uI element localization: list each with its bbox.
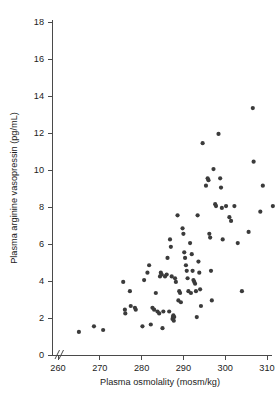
data-point <box>157 311 161 315</box>
data-point <box>77 330 81 334</box>
data-point <box>209 269 213 273</box>
x-tick-label-260: 260 <box>50 363 65 373</box>
data-point <box>172 319 176 323</box>
y-axis-title: Plasma arginine vasopressin (pg/mL) <box>9 112 19 264</box>
axis-break-icon <box>55 350 64 359</box>
data-point <box>204 184 208 188</box>
y-tick-label-18: 18 <box>34 17 44 27</box>
data-point <box>181 232 185 236</box>
data-point <box>193 282 197 286</box>
data-point <box>194 289 198 293</box>
data-point <box>216 132 220 136</box>
data-point <box>198 287 202 291</box>
x-tick-label-290: 290 <box>176 363 191 373</box>
data-point <box>180 226 184 230</box>
data-point <box>232 204 236 208</box>
data-points-layer <box>77 36 279 334</box>
data-point <box>227 215 231 219</box>
data-point <box>185 269 189 273</box>
data-point <box>208 235 212 239</box>
data-point <box>271 204 275 208</box>
data-point <box>154 291 158 295</box>
data-point <box>219 185 223 189</box>
data-point <box>196 259 200 263</box>
data-point <box>168 237 172 241</box>
y-tick-labels: 024681012141618 <box>34 17 44 360</box>
scatter-plot-figure: 024681012141618 260270280290300310 Plasm… <box>0 0 279 401</box>
data-point <box>206 178 210 182</box>
data-point <box>169 245 173 249</box>
data-point <box>207 232 211 236</box>
data-point <box>220 206 224 210</box>
x-tick-label-270: 270 <box>92 363 107 373</box>
data-point <box>252 160 256 164</box>
x-tick-marks <box>58 356 279 361</box>
data-point <box>236 241 240 245</box>
data-point <box>167 309 171 313</box>
y-tick-label-12: 12 <box>34 128 44 138</box>
y-tick-label-2: 2 <box>39 313 44 323</box>
data-point <box>196 213 200 217</box>
plot-canvas: 024681012141618 260270280290300310 Plasm… <box>0 0 279 401</box>
x-tick-label-280: 280 <box>134 363 149 373</box>
data-point <box>185 276 189 280</box>
data-point <box>183 256 187 260</box>
y-tick-label-4: 4 <box>39 276 44 286</box>
y-tick-label-16: 16 <box>34 54 44 64</box>
data-point <box>165 272 169 276</box>
data-point <box>229 219 233 223</box>
data-point <box>251 106 255 110</box>
data-point <box>161 309 165 313</box>
data-point <box>188 241 192 245</box>
data-point <box>145 271 149 275</box>
data-point <box>240 289 244 293</box>
data-point <box>149 322 153 326</box>
y-tick-marks <box>48 22 53 355</box>
data-point <box>101 328 105 332</box>
data-point <box>195 315 199 319</box>
data-point <box>258 210 262 214</box>
data-point <box>184 263 188 267</box>
data-point <box>221 237 225 241</box>
data-point <box>182 250 186 254</box>
data-point <box>142 278 146 282</box>
x-tick-labels: 260270280290300310 <box>50 363 274 373</box>
data-point <box>218 176 222 180</box>
y-tick-label-10: 10 <box>34 165 44 175</box>
y-tick-label-8: 8 <box>39 202 44 212</box>
data-point <box>134 308 138 312</box>
data-point <box>121 280 125 284</box>
data-point <box>128 289 132 293</box>
data-point <box>123 308 127 312</box>
data-point <box>210 298 214 302</box>
y-tick-label-6: 6 <box>39 239 44 249</box>
x-tick-label-300: 300 <box>218 363 233 373</box>
y-tick-label-14: 14 <box>34 91 44 101</box>
data-point <box>201 141 205 145</box>
y-axis: 024681012141618 <box>34 17 53 360</box>
x-axis: 260270280290300310 <box>50 356 279 374</box>
data-point <box>214 204 218 208</box>
data-point <box>179 300 183 304</box>
data-point <box>224 204 228 208</box>
data-point <box>189 291 193 295</box>
data-point <box>147 263 151 267</box>
data-point <box>174 280 178 284</box>
data-point <box>140 324 144 328</box>
data-point <box>190 252 194 256</box>
data-point <box>175 213 179 217</box>
data-point <box>129 304 133 308</box>
data-point <box>123 311 127 315</box>
y-tick-label-0: 0 <box>39 350 44 360</box>
data-point <box>247 230 251 234</box>
data-point <box>261 184 265 188</box>
data-point <box>191 269 195 273</box>
data-point <box>211 167 215 171</box>
data-point <box>160 326 164 330</box>
data-point <box>173 276 177 280</box>
data-point <box>197 271 201 275</box>
x-axis-title: Plasma osmolality (mosm/kg) <box>100 377 220 387</box>
x-tick-label-310: 310 <box>259 363 274 373</box>
data-point <box>92 324 96 328</box>
data-point <box>165 256 169 260</box>
